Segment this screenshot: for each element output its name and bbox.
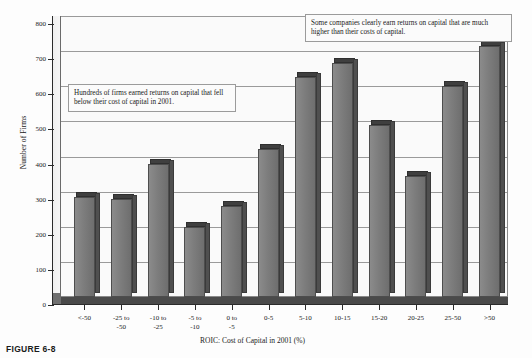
bar-side-face xyxy=(279,145,284,293)
bar-front-face xyxy=(74,197,95,297)
bar-column xyxy=(369,125,390,297)
x-tick xyxy=(84,305,85,310)
bar-front-face xyxy=(221,206,242,297)
bar-front-face xyxy=(369,125,390,297)
y-axis-title: Number of Firms xyxy=(19,88,28,198)
annotation-right: Some companies clearly earn returns on c… xyxy=(305,14,512,42)
bar-front-face xyxy=(405,176,426,297)
bar-side-face xyxy=(169,160,174,293)
x-tick xyxy=(379,305,380,310)
figure-container: Number of Firms 010020030040050060070080… xyxy=(0,0,532,358)
y-tick-label: 800 xyxy=(16,20,46,28)
bar-column xyxy=(258,149,279,297)
bar-column xyxy=(221,206,242,297)
x-tick xyxy=(305,305,306,310)
x-tick xyxy=(195,305,196,310)
y-tick-label: 400 xyxy=(16,161,46,169)
bar-front-face xyxy=(111,199,132,297)
bar-side-face xyxy=(242,202,247,293)
bar-front-face xyxy=(479,46,500,297)
gridline xyxy=(61,121,507,122)
x-tick xyxy=(158,305,159,310)
y-tick-label: 100 xyxy=(16,266,46,274)
x-axis-title: ROIC: Cost of Capital in 2001 (%) xyxy=(200,336,305,345)
bar-side-face xyxy=(390,121,395,293)
y-tick xyxy=(48,94,54,95)
x-tick xyxy=(121,305,122,310)
x-tick xyxy=(453,305,454,310)
x-tick-label: >50 xyxy=(464,314,516,323)
bar-side-face xyxy=(500,42,505,293)
x-tick xyxy=(416,305,417,310)
y-tick xyxy=(48,165,54,166)
bar-column xyxy=(111,199,132,297)
bar-front-face xyxy=(295,77,316,297)
x-tick xyxy=(269,305,270,310)
figure-caption: FIGURE 6-8 xyxy=(6,344,56,354)
y-tick xyxy=(48,59,54,60)
bar-side-face xyxy=(132,195,137,293)
bar-column xyxy=(332,63,353,297)
annotation-left: Hundreds of firms earned returns on capi… xyxy=(68,84,236,112)
bar-side-face xyxy=(353,59,358,293)
bar-front-face xyxy=(332,63,353,297)
y-tick xyxy=(48,200,54,201)
y-tick-label: 500 xyxy=(16,125,46,133)
bar-front-face xyxy=(258,149,279,297)
bar-column xyxy=(405,176,426,297)
bar-side-face xyxy=(426,172,431,293)
y-tick xyxy=(48,129,54,130)
bar-column xyxy=(148,164,169,297)
x-tick xyxy=(490,305,491,310)
bar-front-face xyxy=(442,86,463,297)
bar-front-face xyxy=(184,227,205,297)
y-tick xyxy=(48,235,54,236)
gridline xyxy=(61,51,507,52)
bar-column xyxy=(442,86,463,297)
bar-side-face xyxy=(316,73,321,293)
bar-side-face xyxy=(95,193,100,293)
y-tick-label: 700 xyxy=(16,55,46,63)
bar-front-face xyxy=(148,164,169,297)
bar-side-face xyxy=(463,82,468,293)
bar-side-face xyxy=(205,223,210,293)
bar-column xyxy=(295,77,316,297)
y-tick xyxy=(48,24,54,25)
y-tick xyxy=(48,305,54,306)
bar-column xyxy=(184,227,205,297)
y-tick-label: 200 xyxy=(16,231,46,239)
bar-column xyxy=(479,46,500,297)
x-tick xyxy=(232,305,233,310)
y-tick-label: 0 xyxy=(16,301,46,309)
y-tick-label: 600 xyxy=(16,90,46,98)
bar-column xyxy=(74,197,95,297)
x-tick xyxy=(342,305,343,310)
y-tick-label: 300 xyxy=(16,196,46,204)
y-tick xyxy=(48,270,54,271)
plot-area: 0100200300400500600700800 <-50-25 to-50-… xyxy=(52,16,508,305)
